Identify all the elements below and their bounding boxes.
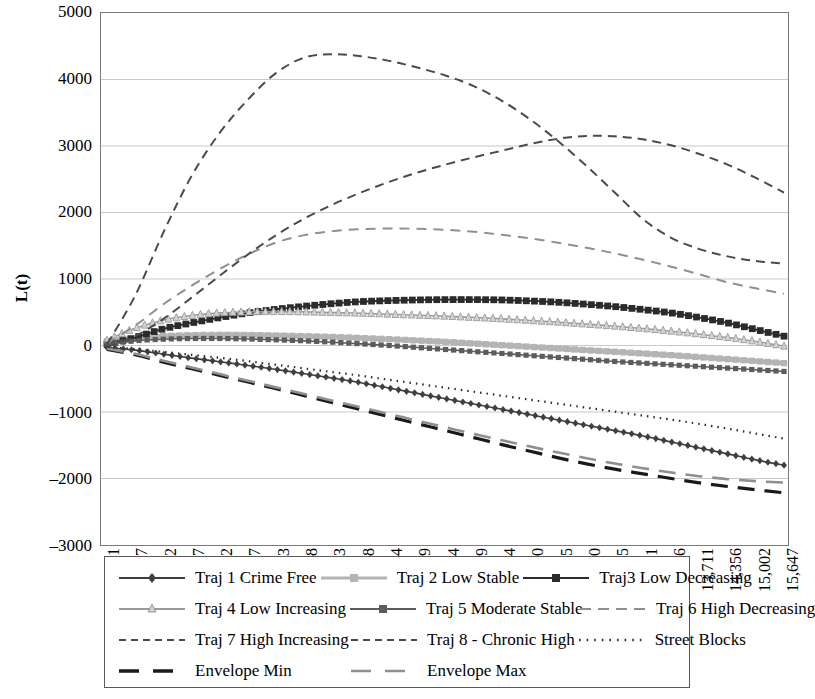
- data-point-marker: [360, 298, 367, 305]
- data-point-marker: [749, 367, 754, 372]
- data-point-marker: [620, 359, 625, 364]
- data-point-marker: [555, 299, 562, 306]
- data-point-marker: [637, 306, 644, 313]
- legend-item-traj-8-chronic-high[interactable]: Traj 8 - Chronic High: [347, 631, 575, 649]
- data-point-marker: [250, 363, 256, 370]
- data-point-marker: [402, 337, 408, 343]
- data-point-marker: [507, 297, 514, 304]
- data-point-marker: [524, 353, 529, 358]
- legend-swatch-wrap: [317, 569, 391, 587]
- legend-item-traj-2-low-stable[interactable]: Traj 2 Low Stable: [317, 569, 520, 587]
- data-point-marker: [209, 336, 214, 341]
- data-point-marker: [596, 358, 601, 363]
- data-point-marker: [338, 334, 344, 340]
- data-point-marker: [523, 343, 529, 349]
- data-point-marker: [548, 354, 553, 359]
- data-point-marker: [717, 449, 723, 456]
- legend-item-traj-1-crime-free[interactable]: Traj 1 Crime Free: [115, 569, 317, 587]
- data-point-marker: [741, 357, 747, 363]
- data-point-marker: [143, 331, 150, 338]
- legend-swatch-wrap: [346, 600, 420, 618]
- data-point-marker: [330, 340, 335, 345]
- series-traj-6-high-decreasing: [107, 228, 784, 342]
- data-point-marker: [564, 418, 570, 425]
- data-point-marker: [466, 296, 473, 303]
- data-point-marker: [765, 359, 771, 365]
- data-point-marker: [661, 362, 666, 367]
- legend-item-envelope-min[interactable]: Envelope Min: [115, 662, 347, 680]
- data-point-marker: [637, 432, 643, 439]
- data-point-marker: [467, 349, 472, 354]
- data-point-marker: [193, 336, 198, 341]
- data-point-marker: [336, 300, 343, 307]
- legend-swatch-wrap: [575, 631, 649, 649]
- data-point-marker: [693, 364, 698, 369]
- legend-item-envelope-max[interactable]: Envelope Max: [347, 662, 577, 680]
- legend-item-traj-6-high-decreasing[interactable]: Traj 6 High Decreasing: [576, 600, 786, 618]
- data-point-marker: [589, 423, 595, 430]
- data-point-marker: [669, 310, 676, 317]
- data-point-marker: [201, 356, 207, 363]
- legend-row: Envelope MinEnvelope Max: [105, 655, 689, 686]
- data-point-marker: [362, 341, 367, 346]
- data-point-marker: [153, 337, 158, 342]
- data-point-marker: [644, 351, 650, 357]
- data-point-marker: [393, 297, 400, 304]
- data-point-marker: [701, 315, 708, 322]
- data-point-marker: [612, 359, 617, 364]
- data-point-marker: [741, 454, 747, 461]
- data-point-marker: [395, 386, 401, 393]
- legend-swatch-wrap: [115, 662, 189, 680]
- chart-legend: Traj 1 Crime FreeTraj 2 Low StableTraj3 …: [104, 556, 690, 688]
- data-point-marker: [354, 341, 359, 346]
- data-point-marker: [450, 339, 456, 345]
- data-point-marker: [515, 352, 520, 357]
- data-point-marker: [556, 355, 561, 360]
- data-point-marker: [652, 361, 657, 366]
- data-point-marker: [604, 303, 611, 310]
- legend-item-traj-4-low-increasing[interactable]: Traj 4 Low Increasing: [115, 600, 346, 618]
- data-point-marker: [693, 314, 700, 321]
- data-point-marker: [596, 348, 602, 354]
- legend-swatch-wrap: [115, 600, 189, 618]
- legend-item-street-blocks[interactable]: Street Blocks: [575, 631, 746, 649]
- data-point-marker: [258, 337, 263, 342]
- data-point-marker: [749, 358, 755, 364]
- data-point-marker: [403, 344, 408, 349]
- data-point-marker: [362, 335, 368, 341]
- legend-swatch: [115, 600, 189, 618]
- data-point-marker: [645, 307, 652, 314]
- data-point-marker: [467, 340, 473, 346]
- data-point-marker: [685, 442, 691, 449]
- data-point-marker: [475, 341, 481, 347]
- legend-swatch: [346, 600, 420, 618]
- legend-marker: [379, 605, 387, 613]
- legend-item-label: Traj 5 Moderate Stable: [426, 600, 583, 617]
- legend-item-traj-5-moderate-stable[interactable]: Traj 5 Moderate Stable: [346, 600, 576, 618]
- legend-item-traj-7-high-increasing[interactable]: Traj 7 High Increasing: [115, 631, 347, 649]
- legend-swatch-wrap: [519, 569, 593, 587]
- data-point-marker: [323, 373, 329, 380]
- data-point-marker: [717, 365, 722, 370]
- data-point-marker: [368, 298, 375, 305]
- data-point-marker: [185, 336, 190, 341]
- data-point-marker: [587, 347, 593, 353]
- data-point-marker: [765, 368, 770, 373]
- legend-item-traj3-low-decreasing[interactable]: Traj3 Low Decreasing: [519, 569, 729, 587]
- data-point-marker: [548, 415, 554, 422]
- data-point-marker: [757, 457, 763, 464]
- legend-item-label: Traj3 Low Decreasing: [599, 569, 751, 586]
- data-point-marker: [331, 375, 337, 382]
- data-point-marker: [547, 298, 554, 305]
- y-axis-tick-label: –1000: [30, 406, 92, 420]
- data-point-marker: [765, 329, 772, 336]
- data-point-marker: [321, 334, 327, 340]
- data-point-marker: [781, 360, 787, 366]
- legend-item-label: Envelope Max: [427, 662, 527, 679]
- data-point-marker: [474, 296, 481, 303]
- y-axis-tick-label: 5000: [30, 5, 92, 19]
- data-point-marker: [483, 341, 489, 347]
- data-point-marker: [266, 365, 272, 372]
- data-point-marker: [436, 394, 442, 401]
- legend-swatch-wrap: [347, 631, 421, 649]
